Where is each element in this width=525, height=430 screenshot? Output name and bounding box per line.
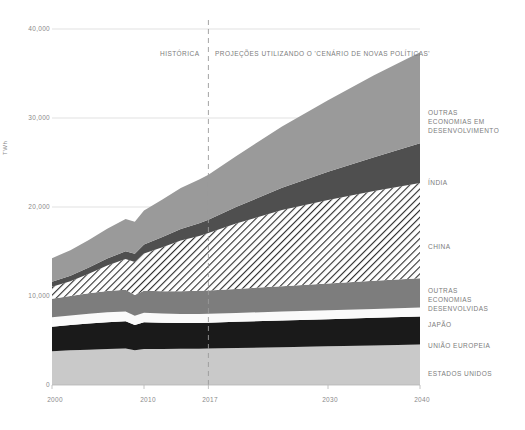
- legend-item-0: OUTRAS ECONOMIAS EM DESENVOLVIMENTO: [428, 108, 499, 136]
- x-tick-0: 2000: [35, 396, 75, 403]
- legend-item-4: JAPÃO: [428, 320, 452, 329]
- legend-item-1: ÍNDIA: [428, 178, 448, 187]
- x-tick-4: 2040: [402, 396, 442, 403]
- x-tick-1: 2010: [128, 396, 168, 403]
- y-tick-label: 40,000: [28, 25, 50, 32]
- stacked-area-chart: TWh 40,00030,00020,00010,0000 2000201020…: [0, 0, 525, 430]
- area-series-group: [52, 52, 420, 385]
- y-tick-3: 10,000: [12, 292, 50, 302]
- legend-item-2: CHINA: [428, 242, 450, 251]
- x-tick-2: 2017: [190, 396, 230, 403]
- legend-item-5: UNIÃO EUROPEIA: [428, 341, 490, 350]
- legend-item-6: ESTADOS UNIDOS: [428, 369, 492, 378]
- y-tick-4: 0: [12, 381, 50, 391]
- y-tick-label: 30,000: [28, 114, 50, 121]
- y-tick-label: 20,000: [28, 203, 50, 210]
- y-tick-label: 10,000: [28, 292, 50, 299]
- y-axis-title: TWh: [2, 141, 8, 155]
- area-series-0: [52, 345, 420, 386]
- y-tick-2: 20,000: [12, 203, 50, 213]
- legend-item-3: OUTRAS ECONOMIAS DESENVOLVIDAS: [428, 286, 488, 314]
- annotation-historica: HISTÓRICA: [160, 50, 199, 57]
- chart-plot-area: [0, 0, 525, 430]
- annotation-projecoes: PROJEÇÕES UTILIZANDO O 'CENÁRIO DE NOVAS…: [215, 50, 430, 57]
- y-tick-label: 0: [46, 381, 50, 388]
- y-tick-0: 40,000: [12, 25, 50, 35]
- axis-lines: [52, 385, 420, 389]
- y-tick-1: 30,000: [12, 114, 50, 124]
- x-tick-3: 2030: [310, 396, 350, 403]
